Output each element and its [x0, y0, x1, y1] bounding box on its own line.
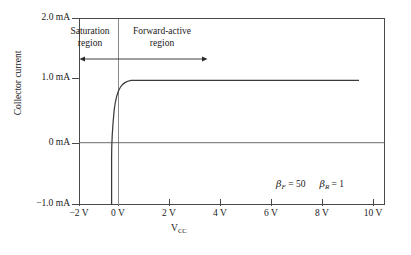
- x-tick-label-0: 0 V: [98, 208, 138, 218]
- x-tick-label-4: 4 V: [200, 208, 240, 218]
- y-axis-title: Collector current: [13, 33, 23, 133]
- y-tick-label-wrap: 2.0 mA: [8, 13, 70, 23]
- x-tick-label-8: 8 V: [302, 208, 342, 218]
- x-axis-title-main: V: [171, 223, 178, 233]
- x-tick-label-6: 6 V: [251, 208, 291, 218]
- beta-forward-annotation: βF = 50: [276, 179, 305, 189]
- chart-figure: Collector current 2.0 mA 1.0 mA 0 mA −1.…: [0, 0, 411, 255]
- x-tick-label-10: 10 V: [353, 208, 393, 218]
- chart-data-curves: [79, 18, 385, 205]
- x-tick-label-2: 2 V: [149, 208, 189, 218]
- beta-parameter-annotations: βF = 50βR = 1: [276, 178, 358, 191]
- x-axis-title-subscript: CC: [178, 227, 187, 235]
- beta-reverse-annotation: βR = 1: [319, 179, 344, 189]
- x-tick-label-neg2: −2 V: [59, 208, 99, 218]
- x-axis-title: VCC: [171, 223, 187, 235]
- beta-forward-value: = 50: [286, 179, 306, 189]
- y-tick-label-2.0: 2.0 mA: [10, 13, 70, 23]
- y-tick-label-1.0: 1.0 mA: [10, 73, 70, 83]
- y-tick-label-0: 0 mA: [10, 138, 70, 148]
- beta-reverse-value: = 1: [329, 179, 344, 189]
- y-tick-label-wrap: 0 mA: [8, 138, 70, 148]
- y-tick-label-wrap: 1.0 mA: [8, 73, 70, 83]
